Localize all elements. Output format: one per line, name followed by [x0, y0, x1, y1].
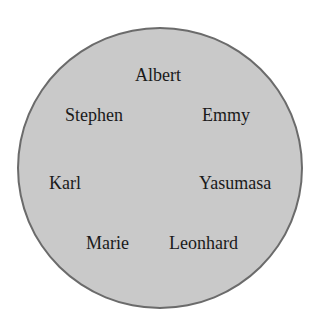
name-marie: Marie — [86, 234, 129, 252]
name-karl: Karl — [49, 174, 81, 192]
name-stephen: Stephen — [65, 106, 123, 124]
name-yasumasa: Yasumasa — [199, 174, 271, 192]
name-emmy: Emmy — [202, 106, 250, 124]
name-leonhard: Leonhard — [169, 234, 238, 252]
name-albert: Albert — [135, 66, 181, 84]
